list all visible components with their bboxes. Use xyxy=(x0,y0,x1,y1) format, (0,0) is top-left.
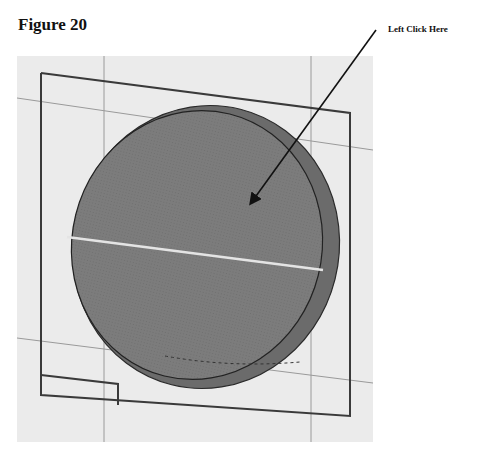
disc-face[interactable] xyxy=(43,84,351,406)
viewport-scene xyxy=(0,0,478,459)
